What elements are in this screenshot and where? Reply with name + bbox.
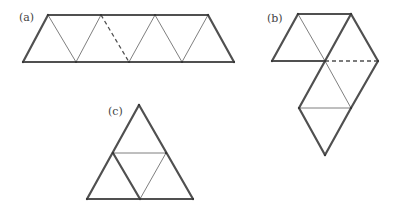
vertex-A xyxy=(138,104,140,106)
vertex-B xyxy=(324,154,326,156)
edge-thick-LL-B xyxy=(299,108,325,155)
edge-thin-C-LR xyxy=(325,61,351,108)
vertex-C xyxy=(324,60,326,62)
vertex-BR xyxy=(192,198,194,200)
net-a xyxy=(22,14,235,63)
edge-thin-MR-BM xyxy=(140,153,166,199)
vertex-B1 xyxy=(22,61,24,63)
vertex-BM xyxy=(139,198,141,200)
vertex-TR xyxy=(350,13,352,15)
vertex-T4 xyxy=(207,14,209,16)
edge-thin-B4-T4 xyxy=(182,15,208,62)
vertex-TL xyxy=(297,13,299,15)
edge-dashed-T2-B3 xyxy=(101,15,129,62)
vertex-T1 xyxy=(47,14,49,16)
vertex-ML xyxy=(112,152,114,154)
vertex-LR xyxy=(350,107,352,109)
vertex-B5 xyxy=(233,61,235,63)
edge-thin-TL-C xyxy=(298,14,325,61)
vertex-R xyxy=(377,60,379,62)
edge-thin-T3-B4 xyxy=(155,15,182,62)
diagram-canvas xyxy=(0,0,399,211)
edge-thick-TR-C xyxy=(325,14,351,61)
panel-label-b: (b) xyxy=(267,13,283,24)
edge-thin-B3-T3 xyxy=(129,15,155,62)
vertex-LL xyxy=(298,107,300,109)
edge-thin-B2-T2 xyxy=(76,15,101,62)
vertex-L xyxy=(271,60,273,62)
net-c xyxy=(86,104,194,200)
vertex-B2 xyxy=(75,61,77,63)
vertex-BL xyxy=(86,198,88,200)
edge-thick-B-LR xyxy=(325,108,351,155)
edge-thick-TR-R xyxy=(351,14,378,61)
edge-thin-T1-B2 xyxy=(48,15,76,62)
panel-label-a: (a) xyxy=(19,12,34,23)
edge-thick-ML-BM xyxy=(113,153,140,199)
vertex-T2 xyxy=(100,14,102,16)
vertex-B4 xyxy=(181,61,183,63)
panel-label-c: (c) xyxy=(108,106,123,117)
vertex-B3 xyxy=(128,61,130,63)
net-b xyxy=(271,13,379,156)
edge-thick-C-LL xyxy=(299,61,325,108)
vertex-MR xyxy=(165,152,167,154)
vertex-T3 xyxy=(154,14,156,16)
edge-thick-T4-B5 xyxy=(208,15,234,62)
edge-thick-R-LR xyxy=(351,61,378,108)
